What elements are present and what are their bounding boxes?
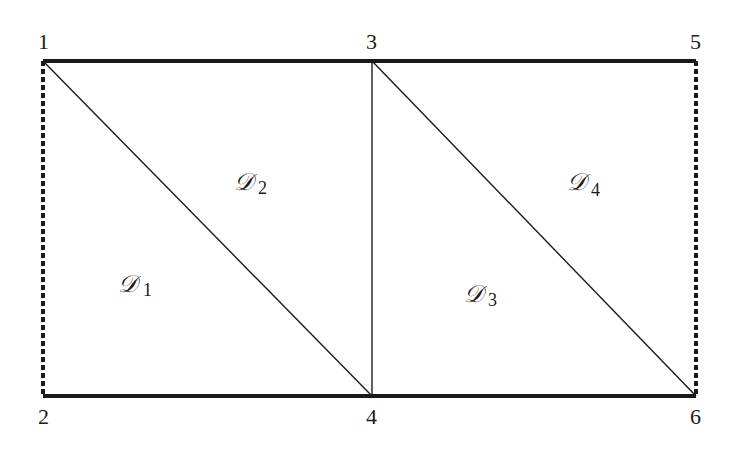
node-label-3: 3 — [366, 29, 377, 54]
triangulated-domain-diagram: 1 2 3 4 5 6 𝒟 1 𝒟 2 𝒟 3 𝒟 4 — [0, 0, 739, 449]
edge-3-6-diagonal — [372, 61, 696, 396]
region-script-d2: 𝒟 — [234, 168, 258, 196]
region-subscript-d3: 3 — [488, 290, 497, 310]
region-subscript-d1: 1 — [143, 280, 152, 300]
region-script-d1: 𝒟 — [118, 270, 142, 298]
node-label-6: 6 — [690, 404, 701, 429]
node-label-1: 1 — [38, 29, 49, 54]
node-label-5: 5 — [690, 29, 701, 54]
region-label-d4: 𝒟 4 — [567, 168, 600, 200]
region-label-d2: 𝒟 2 — [234, 168, 267, 198]
region-subscript-d4: 4 — [591, 180, 600, 200]
node-label-2: 2 — [38, 404, 49, 429]
region-script-d4: 𝒟 — [567, 168, 591, 196]
region-label-d3: 𝒟 3 — [464, 280, 497, 310]
edge-1-4-diagonal — [43, 61, 372, 396]
node-label-4: 4 — [366, 404, 377, 429]
region-subscript-d2: 2 — [258, 178, 267, 198]
region-script-d3: 𝒟 — [464, 280, 488, 308]
region-label-d1: 𝒟 1 — [118, 270, 152, 300]
